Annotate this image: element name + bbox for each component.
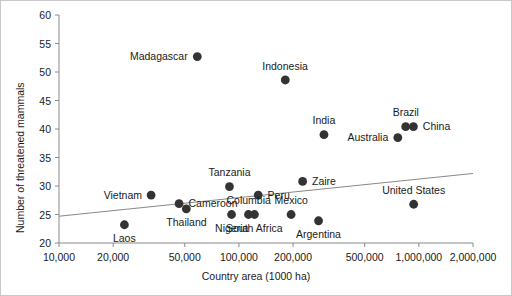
y-axis-tick-label: 20 [25, 238, 51, 249]
x-axis-title: Country area (1000 ha) [1, 270, 511, 282]
point-label-united-states: United States [382, 185, 445, 196]
point-label-india: India [312, 115, 335, 126]
point-label-columbia: Columbia [226, 195, 270, 206]
y-axis-tick-label: 55 [25, 39, 51, 50]
data-point-india[interactable] [320, 130, 329, 139]
point-label-argentina: Argentina [296, 229, 341, 240]
point-label-mexico: Mexico [275, 195, 308, 206]
point-label-tanzania: Tanzania [208, 167, 250, 178]
y-axis-tick-label: 25 [25, 210, 51, 221]
data-point-mexico[interactable] [287, 210, 296, 219]
data-point-australia[interactable] [393, 133, 402, 142]
data-point-nigeria[interactable] [227, 210, 236, 219]
point-label-madagascar: Madagascar [130, 51, 188, 62]
data-point-south-africa[interactable] [250, 210, 259, 219]
y-axis-tick-label: 40 [25, 124, 51, 135]
y-axis-tick-label: 50 [25, 67, 51, 78]
point-label-zaire: Zaire [312, 176, 336, 187]
data-point-indonesia[interactable] [281, 76, 290, 85]
data-point-madagascar[interactable] [193, 52, 202, 61]
data-point-cameroon[interactable] [175, 199, 184, 208]
y-axis-tick-label: 60 [25, 10, 51, 21]
data-point-china[interactable] [409, 122, 418, 131]
point-label-china: China [423, 121, 450, 132]
data-point-zaire[interactable] [298, 177, 307, 186]
data-point-laos[interactable] [120, 220, 129, 229]
point-label-thailand: Thailand [166, 217, 206, 228]
data-point-argentina[interactable] [314, 216, 323, 225]
y-axis-tick-label: 30 [25, 181, 51, 192]
y-axis-tick-label: 35 [25, 153, 51, 164]
y-axis-tick-label: 45 [25, 96, 51, 107]
point-label-vietnam: Vietnam [104, 190, 142, 201]
data-point-vietnam[interactable] [147, 191, 156, 200]
point-label-australia: Australia [347, 132, 388, 143]
point-label-brazil: Brazil [393, 107, 419, 118]
data-point-tanzania[interactable] [225, 182, 234, 191]
data-point-united-states[interactable] [409, 200, 418, 209]
point-label-indonesia: Indonesia [262, 61, 308, 72]
data-point-brazil[interactable] [401, 122, 410, 131]
x-axis-tick-label: 2,000,000 [428, 252, 512, 263]
chart-figure: Number of threatened mammals Country are… [0, 0, 512, 296]
point-label-south-africa: South Africa [226, 223, 283, 234]
point-label-laos: Laos [113, 233, 136, 244]
